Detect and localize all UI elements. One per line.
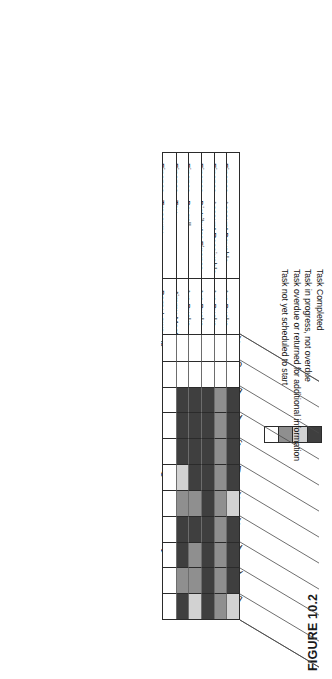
status-cell	[163, 490, 176, 516]
status-matrix-grid	[162, 334, 240, 620]
department-cell: Finance - Payroll	[189, 153, 201, 278]
manager-name: Jimmy Most	[176, 290, 179, 334]
manager-name: Iva Bucks	[214, 290, 217, 326]
status-cell	[226, 567, 239, 593]
department-cell: Finance - Distributor Finance	[202, 153, 214, 278]
manager-cell: Iva Bucks	[215, 278, 227, 334]
status-cell	[188, 593, 201, 619]
status-cell	[214, 567, 227, 593]
department-cell: Finance - Treasury	[163, 153, 176, 278]
department-column: Iva BucksFinance - Payroll	[188, 153, 201, 334]
status-cell	[226, 516, 239, 542]
status-cell	[176, 490, 189, 516]
task-header-divider	[240, 438, 319, 500]
status-cell	[226, 464, 239, 490]
status-cell	[201, 593, 214, 619]
figure-canvas: FIGURE 10.2 Task CompletedTask in progre…	[0, 0, 332, 679]
department-name-table: Iva BucksFinance - Account PayableIva Bu…	[162, 152, 240, 334]
status-cell	[201, 464, 214, 490]
status-cell	[176, 387, 189, 413]
manager-name: Iva Bucks	[226, 290, 229, 326]
task-header-divider	[240, 334, 319, 396]
status-cell	[176, 335, 189, 361]
department-name: Finance - Payroll	[188, 163, 191, 226]
status-cell	[188, 438, 201, 464]
department-name: Finance - Tax	[176, 163, 179, 213]
status-cell	[163, 542, 176, 568]
status-cell	[163, 567, 176, 593]
status-cell	[188, 412, 201, 438]
status-cell	[214, 438, 227, 464]
status-cell	[163, 464, 176, 490]
corner-wedge-divider	[240, 331, 319, 424]
manager-name: Iva Bucks	[188, 290, 191, 326]
status-cell	[163, 387, 176, 413]
department-column: Jimmy MostFinance - Tax	[176, 153, 189, 334]
status-cell	[201, 490, 214, 516]
status-cell	[188, 387, 201, 413]
task-header-divider	[240, 594, 319, 656]
status-cell	[188, 361, 201, 387]
status-cell	[163, 361, 176, 387]
status-cell	[226, 412, 239, 438]
status-cell	[176, 361, 189, 387]
manager-cell: Iva Bucks	[202, 278, 214, 334]
legend-label: Task Completed	[315, 269, 324, 331]
department-column: Iva BucksFinance - Account Payable	[226, 153, 239, 334]
status-cell	[163, 593, 176, 619]
status-matrix	[162, 334, 240, 620]
status-cell	[214, 593, 227, 619]
manager-cell: Barry Lowe	[163, 278, 176, 334]
department-name: Finance - Account Receivable	[214, 163, 217, 274]
status-cell	[214, 542, 227, 568]
task-header-divider	[240, 516, 319, 578]
task-header-divider	[240, 542, 319, 604]
status-cell	[214, 335, 227, 361]
status-cell	[176, 567, 189, 593]
status-cell	[201, 361, 214, 387]
department-name: Finance - Account Payable	[226, 163, 229, 263]
department-column: Iva BucksFinance - Distributor Finance	[201, 153, 214, 334]
status-cell	[214, 387, 227, 413]
status-cell	[188, 335, 201, 361]
status-cell	[201, 335, 214, 361]
department-name: Finance - Treasury	[163, 163, 165, 233]
status-cell	[214, 490, 227, 516]
status-cell	[163, 412, 176, 438]
status-cell	[226, 335, 239, 361]
status-cell	[163, 438, 176, 464]
status-cell	[214, 412, 227, 438]
task-header-divider	[240, 464, 319, 526]
task-header-divider	[240, 620, 319, 671]
status-cell	[188, 516, 201, 542]
status-cell	[188, 490, 201, 516]
department-name: Finance - Distributor Finance	[201, 163, 204, 271]
status-cell	[226, 593, 239, 619]
task-header-divider	[240, 568, 319, 630]
department-column: Iva BucksFinance - Account Receivable	[214, 153, 227, 334]
task-header-divider	[240, 360, 319, 422]
status-cell	[176, 438, 189, 464]
status-cell	[188, 464, 201, 490]
department-cell: Finance - Tax	[177, 153, 189, 278]
manager-name: Barry Lowe	[163, 290, 165, 332]
status-cell	[201, 567, 214, 593]
department-cell: Finance - Account Receivable	[215, 153, 227, 278]
task-header-divider	[240, 490, 319, 552]
manager-cell: Jimmy Most	[177, 278, 189, 334]
status-cell	[163, 516, 176, 542]
status-cell	[201, 387, 214, 413]
status-cell	[201, 412, 214, 438]
status-cell	[226, 542, 239, 568]
status-cell	[176, 464, 189, 490]
manager-cell: Iva Bucks	[227, 278, 239, 334]
status-cell	[176, 516, 189, 542]
status-cell	[226, 387, 239, 413]
status-cell	[214, 464, 227, 490]
manager-name: Iva Bucks	[201, 290, 204, 326]
task-header-divider	[240, 386, 319, 448]
department-cell: Finance - Account Payable	[227, 153, 239, 278]
task-header-divider	[240, 412, 319, 474]
status-cell	[201, 438, 214, 464]
status-cell	[176, 593, 189, 619]
